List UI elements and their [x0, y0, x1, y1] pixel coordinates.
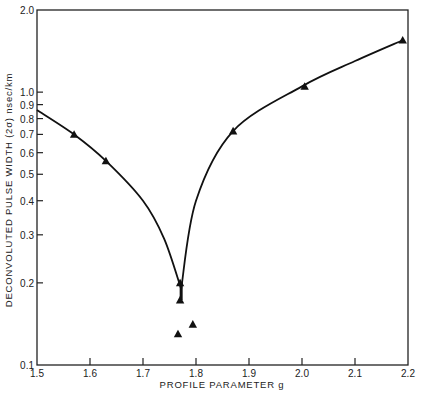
y-tick-label: 0.5: [20, 169, 34, 180]
y-tick-label: 0.9: [20, 100, 34, 111]
y-tick-label: 0.7: [20, 129, 34, 140]
plot-border: [37, 10, 408, 365]
y-tick-label: 2.0: [20, 5, 34, 16]
triangle-marker-icon: [174, 330, 182, 338]
x-tick-label: 2.1: [348, 368, 362, 379]
x-tick-label: 1.6: [83, 368, 97, 379]
x-tick-label: 1.5: [30, 368, 44, 379]
y-tick-label: 0.8: [20, 114, 34, 125]
x-tick-label: 1.7: [136, 368, 150, 379]
y-axis-label: DECONVOLUTED PULSE WIDTH (2σ) nsec/km: [3, 73, 14, 307]
y-axis-ticks: 0.10.20.30.40.50.60.70.80.91.02.0: [20, 5, 43, 371]
triangle-marker-icon: [189, 320, 197, 328]
y-tick-label: 0.2: [20, 278, 34, 289]
y-tick-label: 0.6: [20, 148, 34, 159]
y-tick-label: 1.0: [20, 87, 34, 98]
x-axis-label: PROFILE PARAMETER g: [160, 379, 285, 390]
x-tick-label: 2.0: [295, 368, 309, 379]
data-points: [70, 36, 407, 337]
triangle-marker-icon: [176, 296, 184, 304]
theory-curve: [37, 40, 403, 300]
plot-frame: [37, 10, 408, 365]
theory-curve-right: [181, 40, 403, 289]
theory-curve-left: [37, 110, 181, 289]
x-tick-label: 1.9: [242, 368, 256, 379]
pulse-width-chart: 0.10.20.30.40.50.60.70.80.91.02.0 1.51.6…: [0, 0, 426, 396]
x-tick-label: 1.8: [189, 368, 203, 379]
y-tick-label: 0.4: [20, 196, 34, 207]
x-tick-label: 2.2: [401, 368, 415, 379]
triangle-marker-icon: [399, 36, 407, 44]
y-tick-label: 0.3: [20, 230, 34, 241]
x-axis-ticks: 1.51.61.71.81.92.02.12.2: [30, 358, 415, 379]
